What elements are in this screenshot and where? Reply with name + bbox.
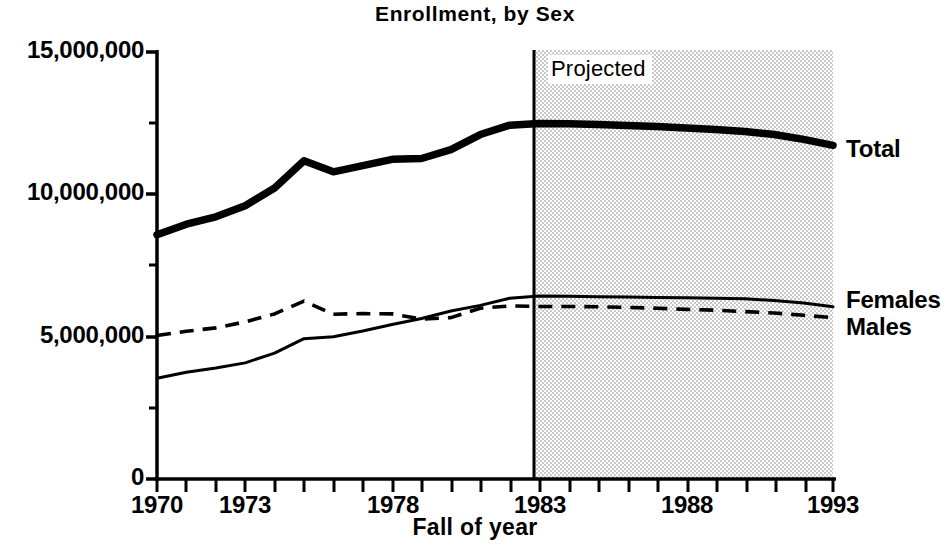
series-label-females: Females [846, 286, 941, 314]
y-axis-tick-label-5m: 5,000,000 [0, 321, 144, 349]
x-axis-title: Fall of year [0, 514, 950, 541]
series-label-males: Males [846, 313, 912, 341]
y-axis-tick-label-15m: 15,000,000 [0, 36, 144, 64]
chart-container: Enrollment, by Sex [0, 0, 950, 559]
y-axis-tick-label-10m: 10,000,000 [0, 178, 144, 206]
series-label-total: Total [846, 135, 901, 163]
projected-shaded-region [534, 50, 833, 479]
projected-annotation-label: Projected [548, 55, 652, 84]
y-axis-tick-label-0: 0 [0, 463, 144, 491]
